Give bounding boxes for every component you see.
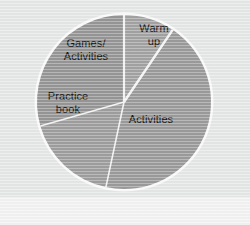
- pie-slice-label-activities: Activities: [114, 113, 188, 126]
- pie-slice-label-warm-up: Warm up: [131, 22, 177, 47]
- pie-chart-figure: Warm up Games/ Activities Practice book …: [0, 0, 250, 225]
- pie-slice-label-practice-book: Practice book: [36, 90, 100, 115]
- pie-slice-label-games-activities: Games/ Activities: [52, 37, 120, 62]
